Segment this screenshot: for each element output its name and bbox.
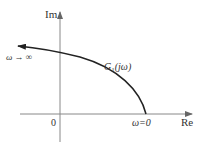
real-axis-label: Re: [181, 116, 193, 128]
origin-label: 0: [51, 117, 56, 128]
omega-zero-label: ω=0: [132, 117, 151, 128]
frequency-response-curve: [18, 46, 146, 114]
curve-name-label: G1(jω): [104, 61, 132, 74]
nyquist-diagram: Im Re 0 ω=0 ω → ∞ G1(jω): [0, 0, 199, 148]
omega-infinity-label: ω → ∞: [6, 52, 32, 62]
imag-axis-label: Im: [45, 8, 58, 20]
